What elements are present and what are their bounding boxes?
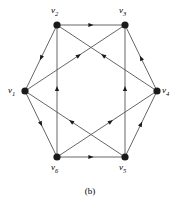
- arrowhead-v1-v6: [38, 121, 42, 127]
- vertex-layer: [21, 21, 160, 160]
- vertex-node-v1: [21, 87, 28, 94]
- directed-graph-diagram: [0, 0, 180, 202]
- vertex-node-v3: [121, 21, 128, 28]
- vertex-label-v4: v4: [162, 86, 169, 97]
- arrowhead-v5-v4: [138, 122, 142, 128]
- arrowhead-v2-v1: [40, 55, 44, 61]
- vertex-node-v4: [153, 87, 160, 94]
- arrowhead-v4-v2: [101, 54, 107, 59]
- vertex-label-subscript-v4: 4: [166, 90, 169, 97]
- vertex-label-subscript-v2: 2: [55, 10, 58, 17]
- vertex-label-subscript-v3: 3: [123, 10, 126, 17]
- arrowhead-v6-v5: [88, 155, 93, 159]
- arrowhead-v5-v1: [69, 120, 75, 125]
- vertex-label-v6: v6: [51, 163, 58, 174]
- figure-panel: v1v2v3v4v5v6 (b): [0, 0, 180, 202]
- vertex-label-v3: v3: [119, 6, 126, 17]
- arrowhead-v6-v2: [55, 86, 59, 91]
- vertex-node-v2: [53, 21, 60, 28]
- arrowhead-v5-v3: [123, 86, 127, 91]
- arrowhead-v4-v3: [140, 56, 144, 62]
- vertex-node-v6: [53, 153, 60, 160]
- arrowhead-v6-v4: [107, 120, 113, 125]
- vertex-node-v5: [121, 153, 128, 160]
- arrowhead-layer: [38, 23, 144, 159]
- vertex-label-subscript-v6: 6: [55, 167, 58, 174]
- vertex-label-v2: v2: [51, 6, 58, 17]
- vertex-label-subscript-v5: 5: [123, 167, 126, 174]
- edge-layer: [26, 25, 155, 157]
- arrowhead-v1-v3: [75, 54, 81, 59]
- figure-caption: (b): [0, 186, 180, 196]
- vertex-label-v1: v1: [8, 86, 15, 97]
- arrowhead-v2-v3: [88, 23, 93, 27]
- vertex-label-subscript-v1: 1: [12, 90, 15, 97]
- vertex-label-v5: v5: [119, 163, 126, 174]
